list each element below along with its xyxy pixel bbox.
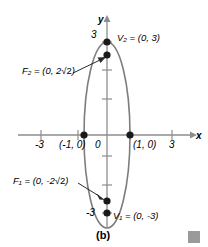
x-tick-label-right-vertex: (1, 0): [133, 140, 156, 150]
figure-caption: (b): [96, 229, 110, 241]
x-tick-label-3: 3: [169, 140, 175, 150]
point-v2: [103, 38, 110, 45]
point-v1: [103, 209, 110, 216]
point-right-vertex: [126, 131, 133, 138]
y-axis-label: y: [98, 15, 104, 25]
annotation-f1: F₁ = (0, -2√2): [13, 176, 68, 186]
origin-label: 0: [95, 140, 101, 150]
annotation-v1: V₁ = (0, -3): [113, 211, 159, 221]
annotation-f1-prefix: F₁ = (0, -2: [13, 175, 55, 186]
decorative-square: [188, 231, 200, 243]
x-tick-label-neg3: -3: [35, 140, 44, 150]
annotation-f2-suffix: ): [72, 65, 75, 76]
x-axis-label: x: [196, 131, 202, 141]
y-axis: [102, 15, 112, 227]
ellipse-figure: y x -3 (-1, 0) 0 (1, 0) 3 3 -3 V₂ = (0, …: [0, 0, 208, 247]
y-tick-label-3: 3: [91, 30, 97, 40]
annotation-f2: F₂ = (0, 2√2): [22, 66, 75, 76]
point-f2: [103, 51, 110, 58]
point-f1: [103, 197, 110, 204]
annotation-f1-suffix: ): [65, 175, 68, 186]
annotation-v2: V₂ = (0, 3): [117, 33, 160, 43]
annotation-f2-radical: √2: [61, 65, 72, 76]
x-tick-label-left-vertex: (-1, 0): [59, 140, 86, 150]
leader-line-f1: [78, 183, 105, 200]
annotation-f2-prefix: F₂ = (0, 2: [22, 65, 61, 76]
leader-line-f2: [73, 57, 106, 73]
point-left-vertex: [80, 131, 87, 138]
y-tick-label-neg3: -3: [86, 208, 95, 218]
ellipse-plot: [0, 0, 208, 247]
annotation-f1-radical: √2: [55, 175, 66, 186]
